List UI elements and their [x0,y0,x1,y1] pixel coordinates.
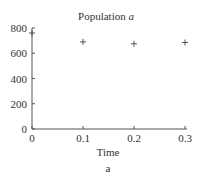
plus-marker [80,39,86,45]
y-tick-label: 0 [22,123,28,135]
plus-marker [29,30,35,36]
x-tick-label: 0 [29,132,35,144]
x-tick-label: 0.2 [127,132,141,144]
chart-title: Population a [78,10,134,22]
y-tick-label: 800 [11,22,28,34]
x-axis-label: Time [97,146,120,158]
x-tick-label: 0.3 [178,132,192,144]
chart: Population a 0200400600800 00.10.20.3 Ti… [0,0,204,177]
y-axis: 0200400600800 [11,22,36,135]
plus-marker [182,40,188,46]
y-tick-label: 200 [11,98,28,110]
plus-marker [131,41,137,47]
x-axis: 00.10.20.3 [29,126,192,144]
data-points [29,30,188,47]
caption: a [106,162,111,174]
x-tick-label: 0.1 [76,132,90,144]
y-tick-label: 400 [11,73,28,85]
y-tick-label: 600 [11,47,28,59]
